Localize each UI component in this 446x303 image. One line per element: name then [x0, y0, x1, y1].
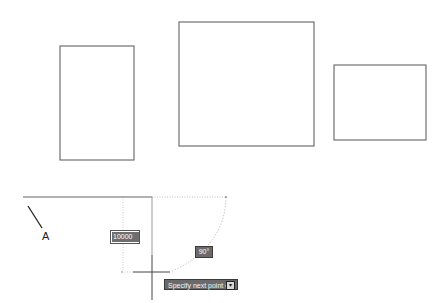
point-label-a: A: [42, 230, 49, 242]
command-prompt-tooltip: Specify next point or ▾: [164, 279, 238, 290]
tracking-point-end: [225, 196, 227, 198]
distance-value[interactable]: 10000: [112, 232, 139, 242]
crosshair-cursor: [133, 255, 170, 300]
down-arrow-icon[interactable]: ▾: [226, 281, 235, 290]
angle-arc: [172, 197, 226, 271]
rectangle-middle[interactable]: [179, 22, 314, 146]
pointer-line-a: [28, 206, 42, 228]
tracking-point-bottom: [121, 271, 123, 273]
drawing-canvas[interactable]: [0, 0, 446, 303]
rectangle-left[interactable]: [60, 46, 134, 160]
distance-input[interactable]: 10000: [110, 230, 140, 244]
tracking-point-corner: [122, 196, 124, 198]
angle-value-badge[interactable]: 90°: [195, 246, 213, 258]
rectangle-right[interactable]: [334, 65, 426, 140]
prompt-text: Specify next point or: [168, 282, 231, 289]
